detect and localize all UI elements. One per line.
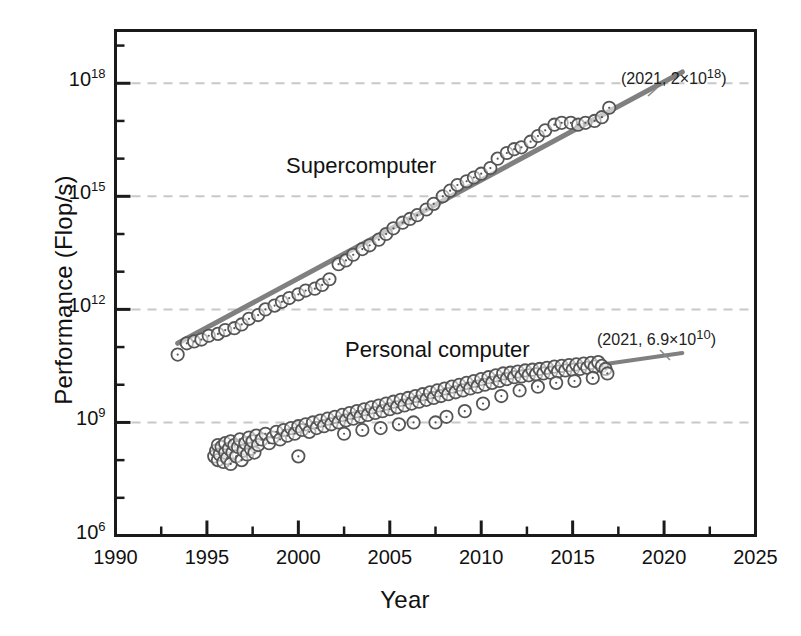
y-tick-exponent: 18 [91, 67, 105, 82]
annotation-pc-exponent: 10 [696, 327, 710, 342]
data-point-supercomputer-center [409, 218, 411, 220]
annotation-supercomputer-text: (2021, 2×10 [621, 70, 707, 87]
annotation-pc-close: ) [711, 331, 716, 348]
data-point-supercomputer-center [314, 288, 316, 290]
x-axis-title: Year [335, 586, 475, 614]
data-point-personal-computer-center [343, 433, 345, 435]
series-label-supercomputer: Supercomputer [286, 153, 436, 179]
data-point-supercomputer-center [352, 254, 354, 256]
data-point-supercomputer-center [425, 208, 427, 210]
data-point-supercomputer-center [328, 278, 330, 280]
data-point-supercomputer-center [584, 122, 586, 124]
y-tick-mantissa: 10 [69, 68, 91, 90]
data-point-supercomputer-center [378, 239, 380, 241]
data-point-personal-computer-center [253, 451, 255, 453]
annotation-supercomputer-close: ) [721, 70, 726, 87]
data-point-personal-computer-center [294, 433, 296, 435]
data-point-supercomputer-center [497, 158, 499, 160]
data-point-supercomputer-center [264, 308, 266, 310]
data-point-personal-computer-center [464, 410, 466, 412]
data-point-personal-computer-center [482, 402, 484, 404]
data-point-personal-computer-center [537, 386, 539, 388]
y-tick-mantissa: 10 [69, 181, 91, 203]
data-point-personal-computer-center [380, 427, 382, 429]
data-point-supercomputer-center [608, 107, 610, 109]
data-point-personal-computer-center [297, 455, 299, 457]
data-point-personal-computer-center [264, 433, 266, 435]
y-tick-exponent: 15 [91, 180, 105, 195]
plot-canvas [0, 0, 801, 636]
data-point-supercomputer-center [321, 284, 323, 286]
data-point-supercomputer-center [593, 120, 595, 122]
data-point-supercomputer-center [537, 135, 539, 137]
data-point-personal-computer-center [412, 421, 414, 423]
data-point-supercomputer-center [561, 122, 563, 124]
data-point-supercomputer-center [544, 129, 546, 131]
y-tick-mantissa: 10 [76, 521, 98, 543]
data-point-supercomputer-center [449, 190, 451, 192]
data-point-personal-computer-center [398, 423, 400, 425]
data-point-personal-computer-center [230, 463, 232, 465]
data-point-supercomputer-center [392, 227, 394, 229]
data-point-personal-computer-center [592, 377, 594, 379]
data-point-personal-computer-center [434, 421, 436, 423]
data-point-supercomputer-center [465, 180, 467, 182]
data-point-supercomputer-center [401, 222, 403, 224]
data-point-supercomputer-center [257, 314, 259, 316]
annotation-supercomputer-exponent: 18 [707, 66, 721, 81]
y-tick-label: 109 [8, 407, 106, 430]
y-tick-label: 1018 [8, 68, 106, 91]
data-point-supercomputer-center [385, 233, 387, 235]
data-point-supercomputer-center [369, 244, 371, 246]
data-point-supercomputer-center [297, 293, 299, 295]
data-point-supercomputer-center [480, 173, 482, 175]
data-point-supercomputer-center [506, 152, 508, 154]
data-point-supercomputer-center [224, 329, 226, 331]
data-point-supercomputer-center [288, 297, 290, 299]
annotation-pc-text: (2021, 6.9×10 [597, 331, 696, 348]
y-tick-mantissa: 10 [76, 407, 98, 429]
series-label-personal-computer: Personal computer [345, 337, 530, 363]
trendline-personal-computer [606, 353, 683, 364]
y-tick-mantissa: 10 [69, 294, 91, 316]
data-point-personal-computer-center [573, 380, 575, 382]
data-point-supercomputer-center [520, 146, 522, 148]
data-point-personal-computer-center [555, 382, 557, 384]
y-tick-label: 106 [8, 521, 106, 544]
x-tick-label: 1990 [83, 546, 149, 569]
data-point-supercomputer-center [217, 333, 219, 335]
y-tick-exponent: 6 [98, 519, 105, 534]
x-tick-label: 1995 [174, 546, 240, 569]
chart-figure: Performance (Flop/s) Year 19901995200020… [0, 0, 801, 636]
y-tick-label: 1012 [8, 294, 106, 317]
data-point-supercomputer-center [601, 116, 603, 118]
data-point-personal-computer-center [519, 389, 521, 391]
y-tick-exponent: 12 [91, 293, 105, 308]
data-point-personal-computer-center [500, 395, 502, 397]
data-point-personal-computer-center [361, 429, 363, 431]
minor-ticks-group [116, 46, 710, 536]
x-tick-label: 2025 [723, 546, 789, 569]
gridlines-group [116, 83, 756, 422]
data-point-supercomputer-center [248, 318, 250, 320]
data-point-supercomputer-center [361, 248, 363, 250]
data-point-supercomputer-center [177, 354, 179, 356]
annotation-personal-computer: (2021, 6.9×1010) [597, 331, 716, 349]
data-point-supercomputer-center [208, 335, 210, 337]
data-point-personal-computer-center [279, 438, 281, 440]
data-point-supercomputer-center [273, 305, 275, 307]
annotation-supercomputer: (2021, 2×1018) [621, 70, 727, 88]
data-point-supercomputer-center [345, 259, 347, 261]
data-point-supercomputer-center [233, 327, 235, 329]
data-point-supercomputer-center [305, 289, 307, 291]
data-point-supercomputer-center [442, 195, 444, 197]
data-point-supercomputer-center [200, 338, 202, 340]
data-point-personal-computer-center [606, 372, 608, 374]
x-tick-label: 2000 [265, 546, 331, 569]
x-tick-label: 2005 [357, 546, 423, 569]
data-point-supercomputer-center [433, 203, 435, 205]
data-point-personal-computer-center [308, 431, 310, 433]
x-tick-label: 2010 [448, 546, 514, 569]
data-point-supercomputer-center [416, 214, 418, 216]
data-point-supercomputer-center [473, 176, 475, 178]
